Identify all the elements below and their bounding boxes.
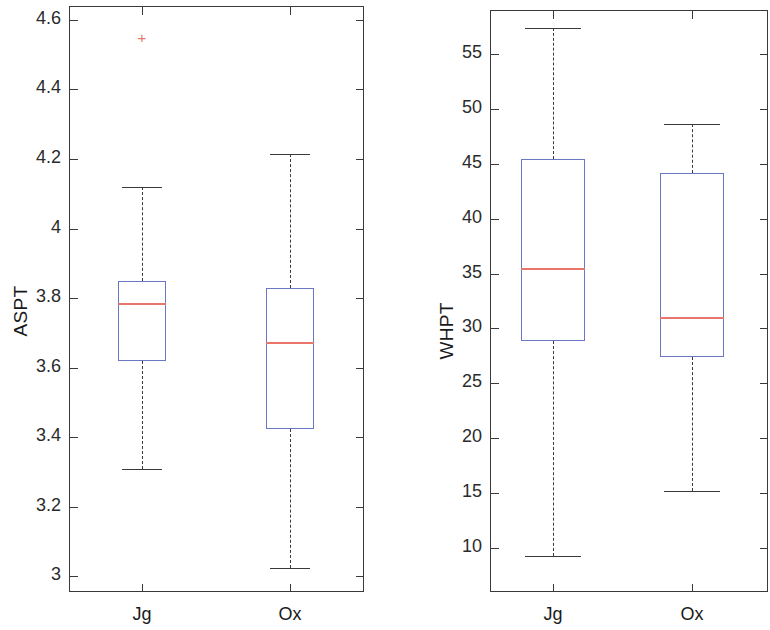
outlier-marker: +	[138, 30, 147, 45]
y-axis-tick-label: 45	[428, 152, 482, 173]
y-axis-tick-label: 3.4	[7, 425, 61, 446]
y-axis-tick	[760, 274, 768, 275]
y-axis-tick-label: 4.4	[7, 77, 61, 98]
x-axis-tick	[290, 7, 291, 15]
y-axis-tick-label: 4.2	[7, 147, 61, 168]
y-axis-tick	[356, 507, 364, 508]
whisker-cap-upper	[122, 187, 162, 188]
y-axis-tick	[70, 89, 78, 90]
y-axis-tick-label: 50	[428, 97, 482, 118]
y-axis-tick	[70, 576, 78, 577]
y-axis-tick	[491, 548, 499, 549]
y-axis-tick-label: 10	[428, 536, 482, 557]
x-axis-tick	[290, 584, 291, 592]
whisker-lower	[290, 429, 291, 568]
y-axis-tick	[491, 274, 499, 275]
y-axis-tick	[760, 328, 768, 329]
y-axis-tick	[356, 89, 364, 90]
y-axis-tick	[356, 159, 364, 160]
whisker-upper	[290, 154, 291, 288]
y-axis-tick	[491, 493, 499, 494]
x-axis-tick-label: Ox	[642, 604, 742, 625]
box-jg	[521, 159, 585, 341]
x-axis-tick	[142, 584, 143, 592]
y-axis-tick	[491, 219, 499, 220]
x-axis-tick	[692, 11, 693, 19]
median-line	[118, 303, 166, 305]
median-line	[660, 317, 724, 319]
y-axis-tick	[356, 229, 364, 230]
y-axis-tick	[760, 109, 768, 110]
y-axis-tick	[491, 164, 499, 165]
y-axis-tick-label: 55	[428, 42, 482, 63]
y-axis-tick	[70, 298, 78, 299]
box-jg	[118, 281, 166, 361]
y-axis-tick-label: 4	[7, 217, 61, 238]
plot-frame	[69, 6, 364, 592]
y-axis-tick	[491, 438, 499, 439]
y-axis-tick	[491, 383, 499, 384]
whisker-cap-lower	[525, 556, 581, 557]
y-axis-tick-label: 30	[428, 316, 482, 337]
x-axis-tick-label: Jg	[503, 604, 603, 625]
y-axis-tick-label: 40	[428, 207, 482, 228]
y-axis-tick-label: 3.8	[7, 286, 61, 307]
y-axis-tick-label: 4.6	[7, 8, 61, 29]
y-axis-tick	[491, 54, 499, 55]
y-axis-tick	[70, 368, 78, 369]
median-line	[266, 342, 314, 344]
x-axis-tick	[142, 7, 143, 15]
y-axis-tick-label: 35	[428, 262, 482, 283]
y-axis-tick	[760, 493, 768, 494]
y-axis-tick	[491, 109, 499, 110]
y-axis-tick-label: 3.6	[7, 356, 61, 377]
y-axis-tick-label: 15	[428, 481, 482, 502]
y-axis-tick	[356, 437, 364, 438]
y-axis-tick	[760, 54, 768, 55]
box-ox	[660, 173, 724, 357]
y-axis-tick	[70, 437, 78, 438]
y-axis-tick	[70, 159, 78, 160]
y-axis-tick	[356, 20, 364, 21]
x-axis-tick-label: Jg	[92, 604, 192, 625]
y-axis-tick	[760, 383, 768, 384]
y-axis-tick-label: 20	[428, 426, 482, 447]
y-axis-tick	[760, 164, 768, 165]
whisker-lower	[553, 341, 554, 556]
y-axis-tick	[70, 229, 78, 230]
whisker-cap-lower	[270, 568, 310, 569]
whisker-upper	[553, 28, 554, 159]
x-axis-tick	[553, 11, 554, 19]
x-axis-tick	[692, 584, 693, 592]
y-axis-tick	[356, 368, 364, 369]
whisker-lower	[142, 361, 143, 469]
y-axis-tick	[760, 548, 768, 549]
whisker-upper	[692, 124, 693, 173]
y-axis-tick	[491, 328, 499, 329]
x-axis-tick-label: Ox	[240, 604, 340, 625]
y-axis-tick	[70, 20, 78, 21]
y-axis-tick	[760, 219, 768, 220]
whisker-upper	[142, 187, 143, 281]
y-axis-tick	[356, 298, 364, 299]
x-axis-tick	[553, 584, 554, 592]
y-axis-tick	[70, 507, 78, 508]
whisker-cap-upper	[525, 28, 581, 29]
whisker-cap-lower	[664, 491, 720, 492]
y-axis-tick-label: 3	[7, 564, 61, 585]
whisker-cap-upper	[664, 124, 720, 125]
whisker-cap-upper	[270, 154, 310, 155]
figure-canvas: ASPT33.23.43.63.844.24.44.6JgOx+ WHPT101…	[0, 0, 770, 630]
median-line	[521, 268, 585, 270]
y-axis-tick	[356, 576, 364, 577]
y-axis-tick-label: 3.2	[7, 495, 61, 516]
whisker-lower	[692, 357, 693, 491]
y-axis-tick-label: 25	[428, 371, 482, 392]
box-ox	[266, 288, 314, 429]
y-axis-tick	[760, 438, 768, 439]
whisker-cap-lower	[122, 469, 162, 470]
